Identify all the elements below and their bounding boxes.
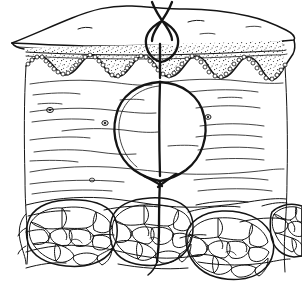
figure-root: Cross-section of skin with buried dermal…	[0, 0, 302, 288]
skin-cross-section-illustration: Cross-section of skin with buried dermal…	[0, 0, 302, 288]
suture-central-thread	[159, 82, 160, 176]
